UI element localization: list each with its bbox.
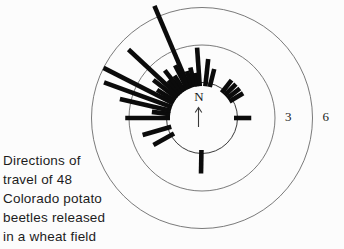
direction-bar <box>153 134 174 145</box>
direction-bar <box>129 49 179 96</box>
caption-line: in a wheat field <box>3 227 105 246</box>
caption-line: Colorado potato <box>3 189 105 208</box>
figure: N 36 Directions of travel of 48 Colorado… <box>0 0 344 249</box>
north-label: N <box>194 89 204 104</box>
scale-ring-6 <box>92 8 313 229</box>
ring-label: 6 <box>323 109 330 124</box>
ring-label: 3 <box>285 109 292 124</box>
caption-line: Directions of <box>3 151 105 170</box>
scale-rings <box>92 8 313 229</box>
direction-bar <box>197 48 200 86</box>
direction-bar <box>143 127 172 135</box>
north-arrow-icon <box>195 108 202 128</box>
direction-bars <box>104 6 252 174</box>
direction-bar <box>205 59 208 86</box>
caption-line: beetles released <box>3 208 105 227</box>
caption-line: travel of 48 <box>3 170 105 189</box>
north-compass: N <box>194 89 204 127</box>
figure-caption: Directions of travel of 48 Colorado pota… <box>3 151 105 246</box>
ring-labels: 36 <box>285 109 330 124</box>
